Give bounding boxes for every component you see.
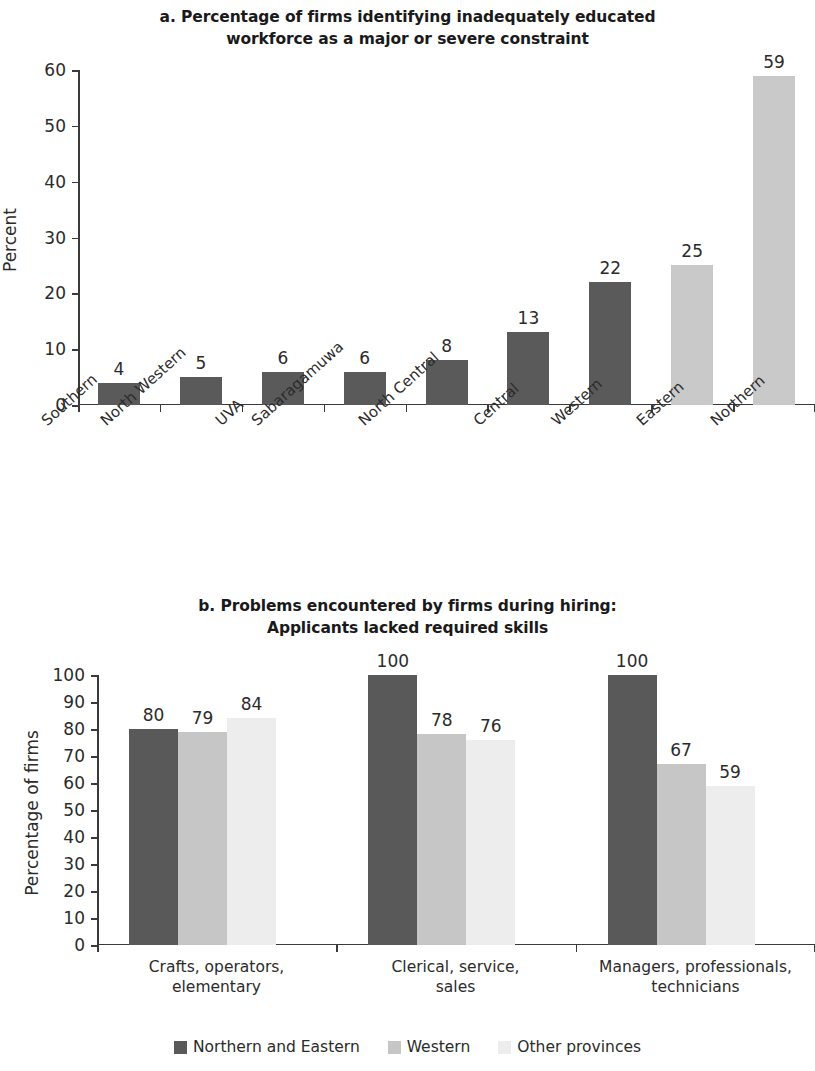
panel-b-ytick-40 bbox=[91, 837, 97, 839]
legend-item-other-provinces: Other provinces bbox=[498, 1040, 641, 1056]
xlabel-b-clerical-line-2: sales bbox=[336, 977, 575, 997]
panel-a: a. Percentage of firms identifying inade… bbox=[0, 0, 815, 560]
panel-b-ytick-10 bbox=[91, 918, 97, 920]
panel-b-ytick-50 bbox=[91, 810, 97, 812]
legend-item-northern-and-eastern: Northern and Eastern bbox=[174, 1040, 360, 1056]
panel-a-ytick-50 bbox=[72, 126, 78, 128]
bar-g1-western bbox=[178, 732, 227, 945]
bar-value-g1-northern-eastern: 80 bbox=[129, 707, 178, 724]
panel-b-ytick-label-40: 40 bbox=[39, 829, 85, 846]
panel-b-title-line-1: b. Problems encountered by firms during … bbox=[0, 595, 815, 617]
panel-a-ylabel: Percent bbox=[0, 190, 20, 290]
bar-value-northern: 59 bbox=[753, 54, 795, 71]
bar-g1-other-provinces bbox=[227, 718, 276, 945]
legend-item-western: Western bbox=[388, 1040, 471, 1056]
panel-b-ytick-label-30: 30 bbox=[39, 856, 85, 873]
panel-b-ytick-label-90: 90 bbox=[39, 694, 85, 711]
panel-b-xtick-2 bbox=[576, 945, 578, 952]
panel-b-title: b. Problems encountered by firms during … bbox=[0, 595, 815, 639]
xlabel-b-managers: Managers, professionals, technicians bbox=[576, 957, 815, 997]
panel-b-ytick-label-50: 50 bbox=[39, 802, 85, 819]
panel-a-ytick-label-50: 50 bbox=[20, 117, 66, 134]
legend-label-other-provinces: Other provinces bbox=[517, 1040, 641, 1056]
panel-b-ytick-label-100: 100 bbox=[39, 667, 85, 684]
panel-b-xtick-0 bbox=[97, 945, 99, 952]
bar-value-g2-northern-eastern: 100 bbox=[368, 653, 417, 670]
legend-label-western: Western bbox=[407, 1040, 471, 1056]
panel-a-xtick-1 bbox=[160, 405, 162, 412]
panel-b-ytick-20 bbox=[91, 891, 97, 893]
panel-b-ytick-60 bbox=[91, 783, 97, 785]
panel-b-legend: Northern and Eastern Western Other provi… bbox=[0, 1040, 815, 1056]
bar-value-g3-northern-eastern: 100 bbox=[608, 653, 657, 670]
xlabel-b-managers-line-1: Managers, professionals, bbox=[576, 957, 815, 977]
bar-g3-other-provinces bbox=[706, 786, 755, 945]
bar-value-uva: 6 bbox=[262, 350, 304, 367]
panel-b-ylabel: Percentage of firms bbox=[22, 713, 42, 913]
panel-a-ytick-label-40: 40 bbox=[20, 173, 66, 190]
panel-a-title-line-2: workforce as a major or severe constrain… bbox=[0, 28, 815, 50]
xlabel-b-crafts-line-2: elementary bbox=[97, 977, 336, 997]
panel-b: b. Problems encountered by firms during … bbox=[0, 585, 815, 1071]
panel-b-ytick-80 bbox=[91, 729, 97, 731]
panel-b-ytick-30 bbox=[91, 864, 97, 866]
bar-g1-northern-eastern bbox=[129, 729, 178, 945]
panel-b-ytick-70 bbox=[91, 756, 97, 758]
xlabel-b-crafts-line-1: Crafts, operators, bbox=[97, 957, 336, 977]
bar-g2-other-provinces bbox=[466, 740, 515, 945]
bar-northern bbox=[753, 76, 795, 405]
panel-a-ytick-label-60: 60 bbox=[20, 62, 66, 79]
panel-b-xtick-1 bbox=[336, 945, 338, 952]
panel-a-ytick-20 bbox=[72, 293, 78, 295]
bar-value-g2-other-provinces: 76 bbox=[466, 718, 515, 735]
panel-a-ytick-60 bbox=[72, 70, 78, 72]
bar-value-southern: 4 bbox=[98, 361, 140, 378]
bar-value-g1-western: 79 bbox=[178, 710, 227, 727]
bar-value-g3-western: 67 bbox=[657, 742, 706, 759]
bar-g3-western bbox=[657, 764, 706, 945]
bar-g2-northern-eastern bbox=[368, 675, 417, 945]
panel-b-y-axis bbox=[97, 675, 99, 945]
panel-b-ytick-90 bbox=[91, 702, 97, 704]
bar-north-western bbox=[180, 377, 222, 405]
panel-b-ytick-label-70: 70 bbox=[39, 748, 85, 765]
panel-a-ytick-30 bbox=[72, 238, 78, 240]
panel-b-ytick-label-80: 80 bbox=[39, 721, 85, 738]
panel-a-xtick-0 bbox=[78, 405, 80, 412]
panel-a-title-line-1: a. Percentage of firms identifying inade… bbox=[0, 6, 815, 28]
panel-a-ytick-40 bbox=[72, 182, 78, 184]
panel-a-plot: 60 50 40 30 20 10 0 4 5 6 6 8 bbox=[78, 70, 815, 405]
bar-value-g3-other-provinces: 59 bbox=[706, 764, 755, 781]
panel-b-title-line-2: Applicants lacked required skills bbox=[0, 617, 815, 639]
panel-b-ytick-label-10: 10 bbox=[39, 910, 85, 927]
bar-value-g2-western: 78 bbox=[417, 712, 466, 729]
xlabel-b-managers-line-2: technicians bbox=[576, 977, 815, 997]
panel-a-ytick-10 bbox=[72, 349, 78, 351]
panel-a-ytick-label-30: 30 bbox=[20, 229, 66, 246]
panel-b-ytick-label-20: 20 bbox=[39, 883, 85, 900]
panel-a-xtick-3 bbox=[324, 405, 326, 412]
panel-a-title: a. Percentage of firms identifying inade… bbox=[0, 6, 815, 50]
bar-value-eastern: 25 bbox=[671, 243, 713, 260]
panel-b-plot: 100 90 80 70 60 50 40 30 20 10 0 80 79 8… bbox=[97, 675, 815, 945]
bar-value-g1-other-provinces: 84 bbox=[227, 696, 276, 713]
panel-a-xtick-4 bbox=[406, 405, 408, 412]
xlabel-b-clerical-line-1: Clerical, service, bbox=[336, 957, 575, 977]
panel-a-y-axis bbox=[78, 70, 80, 405]
legend-swatch-northern-and-eastern bbox=[174, 1041, 187, 1054]
xlabel-b-crafts: Crafts, operators, elementary bbox=[97, 957, 336, 997]
bar-value-central: 13 bbox=[507, 310, 549, 327]
legend-label-northern-and-eastern: Northern and Eastern bbox=[193, 1040, 360, 1056]
bar-value-western: 22 bbox=[589, 260, 631, 277]
legend-swatch-western bbox=[388, 1041, 401, 1054]
xlabel-b-clerical: Clerical, service, sales bbox=[336, 957, 575, 997]
bar-g2-western bbox=[417, 734, 466, 945]
bar-value-sabaragamuwa: 6 bbox=[344, 350, 386, 367]
panel-a-ytick-label-20: 20 bbox=[20, 285, 66, 302]
panel-b-ytick-100 bbox=[91, 675, 97, 677]
panel-b-ytick-label-60: 60 bbox=[39, 775, 85, 792]
bar-g3-northern-eastern bbox=[608, 675, 657, 945]
panel-a-ytick-label-10: 10 bbox=[20, 341, 66, 358]
legend-swatch-other-provinces bbox=[498, 1041, 511, 1054]
panel-b-ytick-label-0: 0 bbox=[39, 937, 85, 954]
